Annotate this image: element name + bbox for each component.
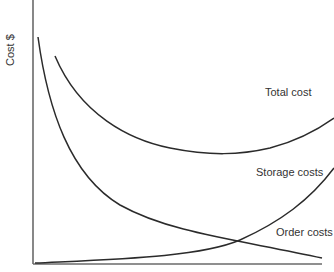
- storage-costs-label: Storage costs: [256, 166, 323, 178]
- order-costs-label: Order costs: [276, 226, 333, 238]
- total-cost-label: Total cost: [265, 86, 311, 98]
- total-cost-curve: [55, 56, 334, 154]
- order-costs-curve: [38, 37, 322, 258]
- storage-costs-curve: [35, 168, 334, 263]
- y-axis-label: Cost $: [4, 34, 16, 66]
